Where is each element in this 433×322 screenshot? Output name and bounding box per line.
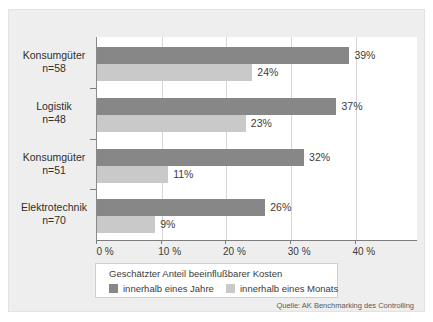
bar-value-label: 37% (341, 98, 362, 115)
bar-value-label: 32% (309, 149, 330, 166)
bar-jahre (97, 149, 304, 166)
chart-figure: 39%24%37%23%32%11%26%9% Geschätzter Ante… (0, 0, 433, 322)
category-label: Konsumgütern=51 (17, 151, 91, 177)
y-axis-tick (90, 189, 96, 190)
bar-value-label: 11% (173, 166, 193, 183)
category-count: n=70 (17, 214, 91, 227)
category-label: Logistikn=48 (17, 100, 91, 126)
bar-monats (97, 64, 252, 81)
x-axis-tick (161, 240, 162, 244)
y-axis-tick (90, 88, 96, 89)
x-axis-tick (355, 240, 356, 244)
bar-value-label: 26% (270, 199, 291, 216)
bar-value-label: 39% (354, 47, 375, 64)
legend-entry-jahre: innerhalb eines Jahre (109, 283, 214, 294)
legend-title: Geschätzter Anteil beeinflußbarer Kosten (109, 268, 282, 279)
x-axis-tick (96, 240, 97, 244)
category-label: Elektrotechnikn=70 (17, 201, 91, 227)
source-note: Quelle: AK Benchmarking des Controlling (276, 301, 414, 310)
x-axis-tick-label: 30 % (288, 246, 311, 257)
bar-monats (97, 166, 168, 183)
category-name: Elektrotechnik (21, 201, 87, 213)
x-axis-tick-label: 0 % (96, 246, 113, 257)
bar-monats (97, 216, 155, 233)
bar-value-label: 9% (160, 216, 175, 233)
chart-legend: Geschätzter Anteil beeinflußbarer Kosten… (95, 263, 338, 298)
category-label: Konsumgütern=58 (17, 49, 91, 75)
bar-monats (97, 115, 246, 132)
category-count: n=51 (17, 164, 91, 177)
category-name: Konsumgüter (23, 151, 85, 163)
bar-jahre (97, 98, 336, 115)
category-name: Logistik (36, 100, 72, 112)
legend-swatch-jahre-icon (109, 284, 118, 293)
gridline (291, 37, 292, 240)
bar-jahre (97, 47, 349, 64)
chart-panel: 39%24%37%23%32%11%26%9% Geschätzter Ante… (8, 9, 425, 312)
x-axis-tick-label: 40 % (352, 246, 375, 257)
bar-jahre (97, 199, 265, 216)
legend-swatch-monats-icon (226, 284, 235, 293)
legend-label-jahre: innerhalb eines Jahre (123, 283, 214, 294)
x-axis-tick (290, 240, 291, 244)
bar-value-label: 23% (251, 115, 272, 132)
category-count: n=48 (17, 113, 91, 126)
y-axis-tick (90, 139, 96, 140)
x-axis-tick (225, 240, 226, 244)
bar-value-label: 24% (257, 64, 278, 81)
category-name: Konsumgüter (23, 49, 85, 61)
x-axis-line (96, 240, 417, 241)
category-count: n=58 (17, 62, 91, 75)
legend-label-monats: innerhalb eines Monats (240, 283, 338, 294)
legend-entry-monats: innerhalb eines Monats (226, 283, 338, 294)
x-axis-tick-label: 10 % (158, 246, 181, 257)
gridline (356, 37, 357, 240)
x-axis-tick-label: 20 % (223, 246, 246, 257)
plot-area: 39%24%37%23%32%11%26%9% (96, 37, 417, 240)
